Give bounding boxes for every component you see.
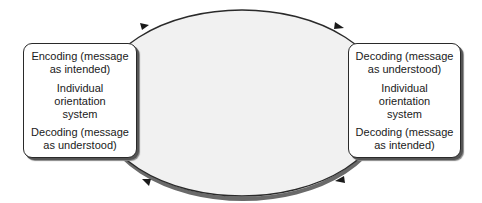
orientation-system-label: Individual orientation system	[54, 82, 105, 121]
label-line: orientation	[379, 95, 430, 108]
label-line: system	[63, 108, 98, 121]
arrow-bottom-left-icon	[142, 179, 151, 186]
label-line: as intended)	[50, 63, 111, 76]
ellipse-body	[96, 10, 388, 196]
label-line: orientation	[54, 95, 105, 108]
receiver-orientation-box: Decoding (message as understood) Individ…	[348, 43, 461, 158]
label-line: system	[387, 108, 422, 121]
label-line: Individual	[57, 82, 103, 95]
decoding-intended-label: Decoding (message as intended)	[356, 126, 454, 152]
sender-orientation-box: Encoding (message as intended) Individua…	[23, 43, 137, 158]
label-line: Decoding (message	[31, 126, 129, 139]
label-line: as understood)	[368, 63, 441, 76]
arrow-top-right-icon	[334, 22, 344, 29]
decoding-understood-label: Decoding (message as understood)	[356, 50, 454, 76]
label-line: Decoding (message	[356, 50, 454, 63]
label-line: as understood)	[43, 139, 116, 152]
label-line: Individual	[381, 82, 427, 95]
label-line: Encoding (message	[31, 50, 128, 63]
label-line: Decoding (message	[356, 126, 454, 139]
label-line: as intended)	[374, 139, 435, 152]
arrow-top-left-icon	[140, 23, 149, 30]
decoding-label: Decoding (message as understood)	[31, 126, 129, 152]
orientation-system-label: Individual orientation system	[379, 82, 430, 121]
encoding-label: Encoding (message as intended)	[31, 50, 128, 76]
